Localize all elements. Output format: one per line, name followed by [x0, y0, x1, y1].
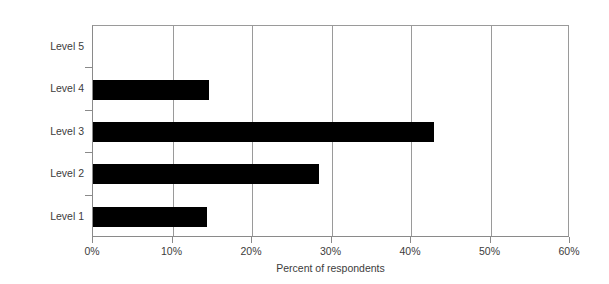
bar-level-1: [93, 207, 207, 227]
y-axis-tick-2: [85, 110, 92, 111]
x-axis-tick-0: [92, 237, 93, 243]
x-axis-label-20: 20%: [221, 245, 281, 258]
x-axis-label-30: 30%: [301, 245, 361, 258]
plot-area: [92, 25, 569, 237]
x-axis-tick-40: [410, 237, 411, 243]
y-axis-tick-4: [85, 195, 92, 196]
x-axis-tick-50: [490, 237, 491, 243]
bar-level-3: [93, 122, 434, 142]
x-axis-tick-60: [569, 237, 570, 243]
bar-level-4: [93, 80, 209, 100]
y-axis-label-level-1: Level 1: [6, 210, 84, 222]
x-axis-label-60: 60%: [539, 245, 599, 258]
bar-row-level-1: [93, 196, 568, 238]
bar-row-level-3: [93, 111, 568, 153]
bar-chart: Level 5 Level 4 Level 3 Level 2 Level 1: [0, 0, 609, 284]
y-axis-label-level-4: Level 4: [6, 82, 84, 94]
x-axis-tick-10: [172, 237, 173, 243]
x-axis-label-40: 40%: [380, 245, 440, 258]
y-axis-tick-3: [85, 152, 92, 153]
y-axis-tick-1: [85, 67, 92, 68]
x-axis-tick-30: [331, 237, 332, 243]
bar-rows: [93, 26, 568, 236]
y-axis-labels: Level 5 Level 4 Level 3 Level 2 Level 1: [0, 25, 84, 237]
y-axis-label-level-5: Level 5: [6, 40, 84, 52]
bar-level-2: [93, 164, 319, 184]
x-axis-label-10: 10%: [142, 245, 202, 258]
y-axis-label-level-3: Level 3: [6, 125, 84, 137]
x-axis-tick-20: [251, 237, 252, 243]
bar-row-level-2: [93, 153, 568, 195]
x-axis-label-50: 50%: [460, 245, 520, 258]
x-axis-label-0: 0%: [62, 245, 122, 258]
x-axis-title: Percent of respondents: [92, 262, 569, 275]
y-axis-label-level-2: Level 2: [6, 167, 84, 179]
bar-row-level-5: [93, 26, 568, 68]
bar-row-level-4: [93, 68, 568, 110]
